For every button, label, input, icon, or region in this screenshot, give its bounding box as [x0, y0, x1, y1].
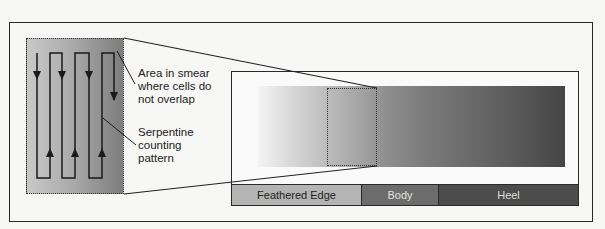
- arrow-up-icon: [46, 148, 106, 157]
- leader-serpentine: [103, 118, 136, 145]
- callout-non-overlap: Area in smear where cells do not overlap: [138, 67, 212, 106]
- callout-line: not overlap: [138, 93, 212, 106]
- callout-line: counting: [138, 139, 194, 152]
- callout-line: where cells do: [138, 80, 212, 93]
- leader-non-overlap: [117, 51, 135, 84]
- callout-line: pattern: [138, 152, 194, 165]
- zoom-connector-bottom: [124, 166, 377, 194]
- callout-line: Serpentine: [138, 126, 194, 139]
- callout-serpentine: Serpentine counting pattern: [138, 126, 194, 165]
- callout-line: Area in smear: [138, 67, 212, 80]
- connector-lines: [0, 0, 605, 229]
- serpentine-path: [37, 53, 114, 178]
